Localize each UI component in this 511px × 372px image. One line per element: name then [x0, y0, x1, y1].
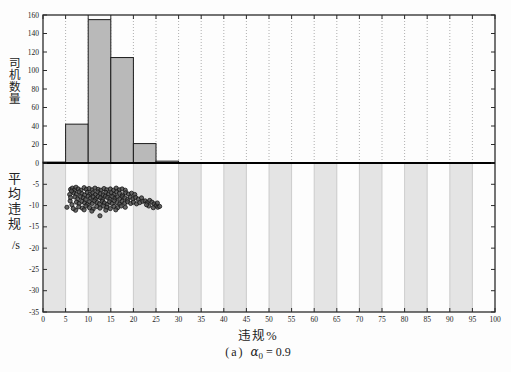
shaded-band	[405, 163, 428, 312]
x-tick-label: 80	[401, 315, 409, 324]
scatter-point	[104, 208, 108, 212]
y-tick-label-top: 100	[28, 66, 40, 75]
scatter-point	[144, 203, 148, 207]
y-tick-label-top: 140	[28, 29, 40, 38]
x-tick-label: 100	[489, 315, 501, 324]
y-tick-label-bottom: -30	[29, 286, 39, 295]
scatter-point	[68, 195, 72, 199]
scatter-point	[114, 208, 118, 212]
x-tick-label: 35	[197, 315, 205, 324]
scatter-point	[123, 205, 127, 209]
dual-panel-chart: 0510152025303540455055606570758085909510…	[0, 0, 511, 372]
y-tick-label-bottom: -25	[29, 265, 39, 274]
y-tick-label-bottom: -35	[29, 308, 39, 317]
figure-caption: (a)α0 = 0.9	[158, 345, 358, 361]
x-tick-label: 30	[175, 315, 183, 324]
x-tick-label: 0	[41, 315, 45, 324]
x-tick-label: 20	[130, 315, 138, 324]
shaded-band	[43, 163, 66, 312]
scatter-point	[151, 206, 155, 210]
y-tick-label-bottom: -5	[33, 180, 39, 189]
scatter-point	[98, 214, 102, 218]
y-axis-label-driver-count: 司机数量	[7, 57, 22, 105]
y-tick-label-top: 60	[32, 103, 40, 112]
caption-value: = 0.9	[263, 345, 291, 359]
shaded-band	[450, 163, 473, 312]
scatter-point	[71, 206, 75, 210]
x-tick-label: 60	[310, 315, 318, 324]
y-tick-label-bottom: -20	[29, 244, 39, 253]
x-axis-label: 违规%	[208, 325, 308, 344]
histogram-bar	[111, 58, 134, 163]
figure: 0510152025303540455055606570758085909510…	[0, 0, 511, 372]
scatter-point	[65, 205, 69, 209]
x-tick-label: 10	[84, 315, 92, 324]
x-tick-label: 70	[356, 315, 364, 324]
x-tick-label: 25	[152, 315, 160, 324]
y-tick-label-bottom: -15	[29, 222, 39, 231]
shaded-band	[88, 163, 111, 312]
caption-alpha-symbol: α	[250, 345, 258, 359]
x-tick-label: 65	[333, 315, 341, 324]
x-tick-label: 45	[243, 315, 251, 324]
y-tick-label-top: 160	[28, 11, 40, 20]
shaded-band	[133, 163, 156, 312]
scatter-point	[155, 201, 159, 205]
x-tick-label: 85	[423, 315, 431, 324]
y-tick-label-top: 120	[28, 48, 40, 57]
y-tick-label-top: 20	[32, 140, 40, 149]
x-tick-label: 75	[378, 315, 386, 324]
scatter-point	[119, 204, 123, 208]
y-tick-label-top: 0	[35, 159, 39, 168]
x-tick-label: 40	[220, 315, 228, 324]
y-tick-label-top: 80	[32, 85, 40, 94]
histogram-bar	[66, 124, 89, 163]
shaded-band	[314, 163, 337, 312]
x-tick-label: 15	[107, 315, 115, 324]
shaded-band	[269, 163, 292, 312]
y-tick-label-top: 40	[32, 122, 40, 131]
y-axis-label-avg-violation: 平均违规	[7, 171, 22, 231]
x-tick-label: 95	[469, 315, 477, 324]
histogram-bar	[133, 144, 156, 163]
x-tick-label: 50	[265, 315, 273, 324]
shaded-band	[359, 163, 382, 312]
shaded-band	[179, 163, 202, 312]
shaded-band	[224, 163, 247, 312]
caption-index: (a)	[225, 345, 244, 359]
x-tick-label: 90	[446, 315, 454, 324]
scatter-point	[90, 209, 94, 213]
histogram-bar	[88, 20, 111, 163]
y-axis-unit-label: /s	[6, 238, 26, 253]
scatter-point	[82, 208, 86, 212]
x-tick-label: 5	[64, 315, 68, 324]
x-tick-label: 55	[288, 315, 296, 324]
y-tick-label-bottom: -10	[29, 201, 39, 210]
